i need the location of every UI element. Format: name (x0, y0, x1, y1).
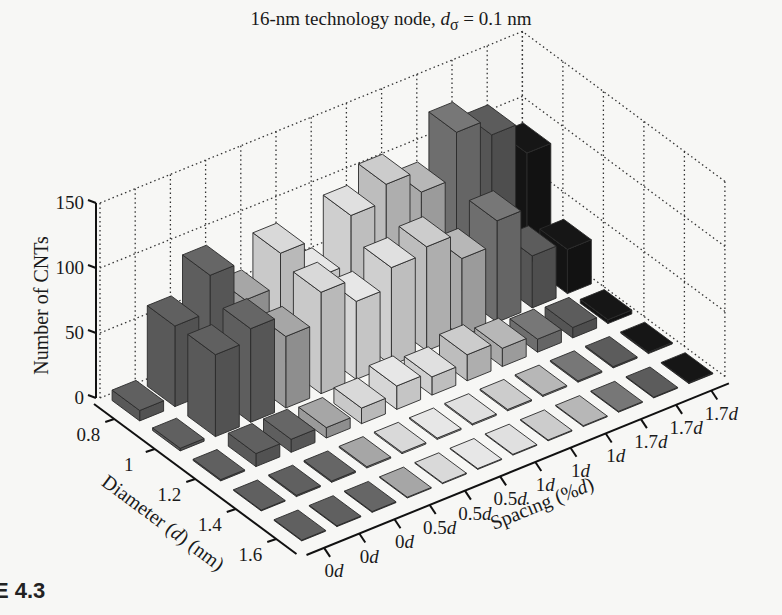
bar (374, 422, 426, 453)
spacing-tick-label: 1.7d (669, 417, 703, 438)
z-tick (88, 395, 96, 398)
diameter-tick (105, 419, 114, 422)
bar (304, 451, 356, 482)
spacing-tick-label: 1d (606, 445, 626, 466)
spacing-tick-label: 0.5d (423, 517, 457, 538)
z-tick-label: 50 (65, 322, 84, 343)
spacing-tick (324, 548, 330, 557)
bar (415, 453, 467, 484)
bar (274, 510, 326, 541)
bar (626, 367, 678, 398)
bar (345, 481, 397, 512)
z-axis-title: Number of CNTs (30, 236, 52, 375)
diameter-tick (227, 509, 236, 512)
spacing-tick-label: 1.7d (705, 403, 739, 424)
bar3d-chart: 050100150Number of CNTs0.811.21.41.6Diam… (0, 0, 782, 615)
spacing-tick-label: 0d (360, 546, 380, 567)
diameter-tick-label: 1.6 (238, 544, 262, 565)
bar (591, 381, 643, 412)
spacing-tick (641, 419, 647, 428)
spacing-tick (606, 433, 612, 442)
bar (380, 467, 432, 498)
bar (309, 496, 361, 527)
bar (410, 408, 462, 439)
z-tick-label: 0 (75, 387, 85, 408)
diameter-tick-label: 1.2 (157, 484, 181, 505)
bar (450, 439, 502, 470)
spacing-tick-label: 0d (325, 560, 345, 581)
figure-caption: RE 4.3 (0, 578, 45, 604)
bar (480, 379, 532, 410)
z-tick-label: 100 (56, 257, 85, 278)
bar (515, 365, 567, 396)
z-tick (88, 200, 96, 203)
bar (269, 465, 321, 496)
spacing-tick (465, 491, 471, 500)
spacing-tick (571, 448, 577, 457)
z-tick (88, 330, 96, 333)
diameter-tick (267, 539, 276, 542)
spacing-tick (395, 519, 401, 528)
diameter-tick (146, 449, 155, 452)
bars (112, 102, 713, 541)
bar (193, 450, 245, 481)
spacing-tick (430, 505, 436, 514)
bar (521, 410, 573, 441)
spacing-tick-label: 0d (395, 531, 415, 552)
bar (188, 325, 240, 437)
diameter-tick-label: 1.4 (198, 514, 222, 535)
spacing-tick (359, 534, 365, 543)
spacing-tick (535, 462, 541, 471)
spacing-tick (676, 405, 682, 414)
bar (485, 424, 537, 455)
bar (621, 322, 673, 353)
bar (339, 437, 391, 468)
z-tick (88, 265, 96, 268)
bar (586, 337, 638, 368)
bar (445, 394, 497, 425)
bar (661, 353, 713, 384)
diameter-tick (186, 479, 195, 482)
spacing-tick (711, 391, 717, 400)
spacing-tick (500, 476, 506, 485)
spacing-tick-label: 1.7d (634, 431, 668, 452)
diameter-tick-label: 1 (124, 454, 134, 475)
bar (234, 480, 286, 511)
bar (550, 351, 602, 382)
z-tick-label: 150 (56, 192, 85, 213)
bar (153, 418, 205, 451)
diameter-tick-label: 0.8 (76, 424, 100, 445)
bar (556, 396, 608, 427)
